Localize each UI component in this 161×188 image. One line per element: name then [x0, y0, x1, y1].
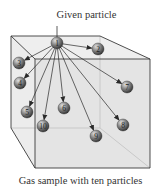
particle-8: 8	[117, 119, 129, 131]
box-front-face	[35, 59, 150, 168]
particle-9-number: 9	[94, 132, 98, 141]
particle-6: 6	[58, 102, 70, 114]
particle-2: 2	[92, 43, 104, 55]
particle-8-number: 8	[121, 121, 125, 130]
gas-sample-diagram: 23456789101	[0, 0, 161, 188]
box	[11, 36, 150, 168]
particle-1-given-number: 1	[55, 39, 59, 48]
particle-5-number: 5	[25, 108, 29, 117]
caption: Gas sample with ten particles	[0, 175, 161, 186]
particle-9: 9	[90, 130, 102, 142]
particle-1-given: 1	[51, 37, 63, 49]
particle-3: 3	[13, 57, 25, 69]
particle-5: 5	[21, 106, 33, 118]
particle-4: 4	[14, 77, 26, 89]
particle-3-number: 3	[17, 59, 21, 68]
particle-2-number: 2	[96, 45, 100, 54]
particle-10: 10	[37, 120, 49, 132]
particle-7-number: 7	[125, 83, 129, 92]
particle-6-number: 6	[62, 104, 66, 113]
particle-7: 7	[121, 81, 133, 93]
particle-4-number: 4	[18, 79, 22, 88]
particle-10-number: 10	[39, 122, 47, 131]
